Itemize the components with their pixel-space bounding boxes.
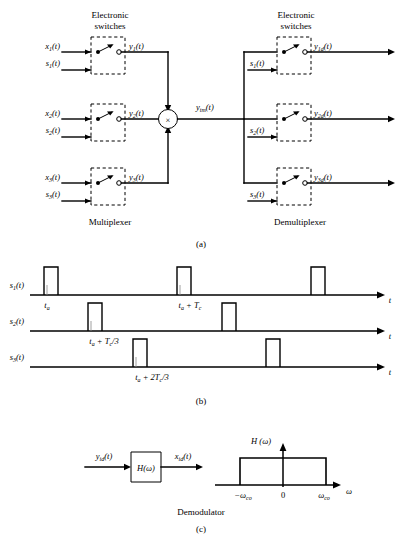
timing-row-s1-label: s1(t) — [10, 280, 25, 291]
filter-response-tick-neg: −ωco — [234, 490, 251, 501]
mux-heading-line2: switches — [95, 21, 126, 31]
mux-output-1-label: y1(t) — [128, 41, 144, 52]
filter-response-tick-pos: ωco — [318, 490, 330, 501]
panel-c-caption: (c) — [196, 524, 206, 534]
panel-b: s1(t) ta ta + Tc t s2(t) ta + Tc/3 t s3(… — [10, 267, 392, 406]
timing-s1-tick-ta-plus-tc: ta + Tc — [179, 300, 202, 311]
filter-response-plot: H (ω) −ωco 0 ωco ω — [215, 436, 352, 501]
demux-switch-3[interactable] — [248, 168, 395, 205]
multiplier-symbol: × — [166, 115, 171, 125]
demodulator-input-label: yid(t) — [95, 451, 113, 462]
mux-input-2-label: x2(t) — [44, 108, 60, 119]
figure-tdm-system: Electronic switches Electronic switches … — [0, 0, 403, 537]
demux-clock-1-label: s1(t) — [250, 58, 265, 69]
demux-switch-2[interactable] — [248, 104, 395, 141]
multiplier-node: × — [159, 52, 245, 183]
timing-row-s3-label: s3(t) — [10, 352, 25, 363]
demux-output-1-label: y1d(t) — [313, 41, 332, 52]
mux-input-1-label: x1(t) — [44, 41, 60, 52]
panel-a: Electronic switches Electronic switches … — [44, 10, 395, 249]
demux-heading-line2: switches — [281, 21, 312, 31]
mux-clock-2-label: s2(t) — [46, 125, 61, 136]
demux-clock-3-label: s3(t) — [250, 189, 265, 200]
mux-output-label: ytm(t) — [195, 102, 214, 113]
demux-output-3-label: y3d(t) — [313, 172, 332, 183]
mux-caption: Multiplexer — [89, 217, 132, 227]
demux-switch-1[interactable] — [248, 37, 395, 74]
mux-output-2-label: y2(t) — [128, 108, 144, 119]
mux-output-3-label: y3(t) — [128, 172, 144, 183]
mux-input-3-label: x3(t) — [44, 172, 60, 183]
mux-switch-3[interactable] — [62, 168, 168, 205]
mux-clock-1-label: s1(t) — [46, 58, 61, 69]
mux-clock-3-label: s3(t) — [46, 189, 61, 200]
demux-caption: Demultiplexer — [274, 217, 326, 227]
timing-s3-tick-label: ta + 2Tc/3 — [135, 372, 169, 383]
demodulator-output-label: xid(t) — [174, 451, 192, 462]
mux-heading-line1: Electronic — [92, 10, 129, 20]
panel-c: H(ω) yid(t) xid(t) H (ω) −ωco 0 ωco ω De… — [85, 436, 352, 534]
filter-response-tick-zero: 0 — [281, 490, 285, 500]
timing-row-s3: s3(t) ta + 2Tc/3 t — [10, 339, 392, 383]
timing-s2-tick-label: ta + Tc/3 — [89, 336, 118, 347]
filter-response-xlabel: ω — [346, 486, 352, 496]
timing-s1-axis-label: t — [389, 295, 392, 305]
demux-clock-2-label: s2(t) — [250, 125, 265, 136]
timing-s3-axis-label: t — [389, 367, 392, 377]
panel-b-caption: (b) — [196, 396, 207, 406]
timing-s2-axis-label: t — [389, 331, 392, 341]
panel-a-caption: (a) — [196, 239, 206, 249]
timing-row-s1: s1(t) ta ta + Tc t — [10, 267, 392, 311]
mux-switch-2[interactable] — [62, 104, 167, 141]
demux-heading-line1: Electronic — [278, 10, 315, 20]
demux-output-2-label: y2d(t) — [313, 108, 332, 119]
filter-block-label: H(ω) — [136, 463, 155, 473]
filter-response-ylabel: H (ω) — [250, 436, 271, 446]
timing-s1-tick-ta: ta — [44, 300, 49, 311]
timing-row-s2-label: s2(t) — [10, 316, 25, 327]
demodulator-caption: Demodulator — [177, 507, 225, 517]
mux-switch-1[interactable] — [62, 37, 168, 74]
